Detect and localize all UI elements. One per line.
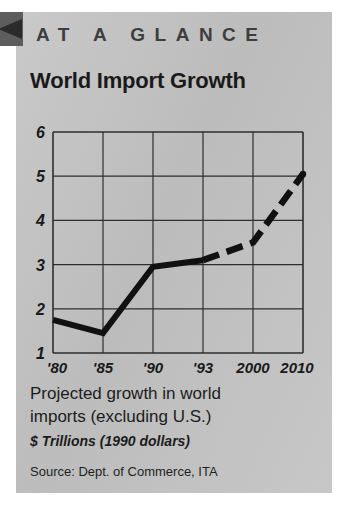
units-label: $ Trillions (1990 dollars) (30, 433, 320, 449)
caption-block: Projected growth in world imports (exclu… (30, 382, 320, 449)
triangle-glyph (0, 19, 22, 39)
source-label: Source: Dept. of Commerce, ITA (30, 464, 218, 479)
caption-line-1: Projected growth in world (30, 382, 320, 405)
kicker-label: AT A GLANCE (36, 24, 268, 46)
caption-line-2: imports (excluding U.S.) (30, 405, 320, 428)
page-title: World Import Growth (30, 68, 246, 94)
corner-arrow-icon (0, 12, 23, 46)
